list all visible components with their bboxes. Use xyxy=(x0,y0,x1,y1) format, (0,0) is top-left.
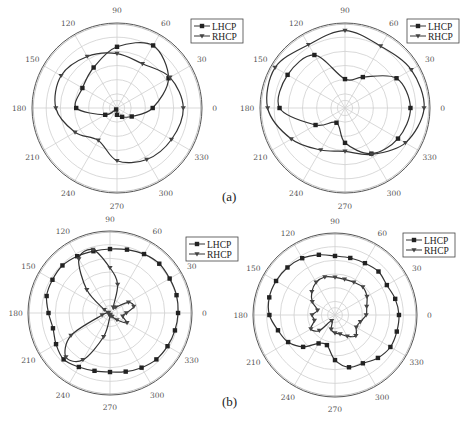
angle-tick-label: 30 xyxy=(187,262,197,271)
grid-spoke xyxy=(345,66,419,109)
angle-tick-label: 30 xyxy=(425,55,435,64)
lhcp-marker xyxy=(125,247,129,251)
lhcp-marker xyxy=(51,326,55,330)
grid-spoke xyxy=(271,108,345,151)
lhcp-marker xyxy=(267,313,271,317)
lhcp-marker xyxy=(333,254,337,258)
angle-tick-label: 330 xyxy=(422,153,437,162)
rhcp-marker xyxy=(76,257,81,261)
grid-spoke xyxy=(264,315,335,356)
angle-tick-label: 60 xyxy=(152,227,162,236)
legend-label-lhcp: LHCP xyxy=(207,240,231,250)
lhcp-marker xyxy=(313,123,317,127)
rhcp-marker xyxy=(309,290,314,294)
angle-tick-label: 270 xyxy=(110,202,125,211)
lhcp-marker xyxy=(385,283,389,287)
angle-tick-label: 240 xyxy=(289,189,304,198)
lhcp-marker xyxy=(200,24,204,28)
lhcp-marker xyxy=(124,369,128,373)
lhcp-marker xyxy=(361,361,365,365)
angle-tick-label: 300 xyxy=(159,189,174,198)
lhcp-marker xyxy=(333,358,337,362)
lhcp-marker xyxy=(74,106,78,110)
lhcp-marker xyxy=(416,24,420,28)
lhcp-marker xyxy=(343,141,347,145)
angle-tick-label: 150 xyxy=(246,264,261,273)
rhcp-marker xyxy=(312,319,317,323)
angle-tick-label: 120 xyxy=(281,229,296,238)
angle-tick-label: 330 xyxy=(194,153,209,162)
angle-tick-label: 150 xyxy=(253,55,268,64)
grid-spoke xyxy=(294,315,335,386)
lhcp-marker xyxy=(396,136,400,140)
polar-plot-b-right: 0306090120150180210240270300330LHCPRHCP xyxy=(234,217,455,415)
legend: LHCPRHCP xyxy=(186,237,238,261)
lhcp-marker xyxy=(317,253,321,257)
figure-canvas: 0306090120150180210240270300330LHCPRHCP … xyxy=(0,0,463,428)
lhcp-marker xyxy=(397,313,401,317)
polar-plot-a-left: 0306090120150180210240270300330LHCPRHCP xyxy=(12,6,243,211)
lhcp-marker xyxy=(343,77,347,81)
grid-spoke xyxy=(117,108,191,151)
grid-spoke xyxy=(75,34,118,108)
lhcp-marker xyxy=(363,261,367,265)
grid-spoke xyxy=(39,272,110,313)
legend-label-rhcp: RHCP xyxy=(212,32,237,42)
lhcp-marker xyxy=(44,294,48,298)
lhcp-marker xyxy=(376,356,380,360)
lhcp-marker xyxy=(347,365,351,369)
lhcp-marker xyxy=(108,247,112,251)
lhcp-marker xyxy=(274,279,278,283)
lhcp-marker xyxy=(151,106,155,110)
legend: LHCPRHCP xyxy=(191,19,243,43)
rhcp-marker xyxy=(120,315,125,319)
grid-spoke xyxy=(69,313,110,384)
polar-plot-a-right: 0306090120150180210240270300330LHCPRHCP xyxy=(240,6,459,211)
angle-tick-label: 120 xyxy=(289,19,304,28)
lhcp-marker xyxy=(165,344,169,348)
caption-b: (b) xyxy=(222,394,237,410)
lhcp-marker xyxy=(120,115,124,119)
lhcp-marker xyxy=(54,342,58,346)
grid-spoke xyxy=(117,66,191,109)
angle-tick-label: 90 xyxy=(340,6,350,15)
angle-tick-label: 60 xyxy=(377,229,387,238)
lhcp-marker xyxy=(92,369,96,373)
lhcp-marker xyxy=(151,43,155,47)
lhcp-marker xyxy=(300,256,304,260)
lhcp-marker xyxy=(80,86,84,90)
lhcp-marker xyxy=(285,265,289,269)
rhcp-marker xyxy=(364,295,369,299)
angle-tick-label: 180 xyxy=(234,311,249,320)
angle-tick-label: 150 xyxy=(25,55,40,64)
angle-tick-label: 30 xyxy=(197,55,207,64)
lhcp-marker xyxy=(277,106,281,110)
angle-tick-label: 210 xyxy=(25,153,40,162)
grid-spoke xyxy=(110,313,151,384)
lhcp-marker xyxy=(115,113,119,117)
angle-tick-label: 150 xyxy=(21,262,36,271)
caption-a: (a) xyxy=(222,189,236,205)
angle-tick-label: 0 xyxy=(440,104,445,113)
lhcp-marker xyxy=(276,328,280,332)
polar-plot-b-left: 0306090120150180210240270300330LHCPRHCP xyxy=(9,215,238,413)
angle-tick-label: 330 xyxy=(410,358,425,367)
lhcp-marker xyxy=(267,295,271,299)
angle-tick-label: 210 xyxy=(21,356,36,365)
angle-tick-label: 90 xyxy=(105,215,115,224)
grid-spoke xyxy=(303,108,346,182)
angle-tick-label: 300 xyxy=(150,391,165,400)
lhcp-marker xyxy=(301,345,305,349)
angle-tick-label: 300 xyxy=(375,393,390,402)
angle-tick-label: 300 xyxy=(387,189,402,198)
rhcp-marker xyxy=(272,66,277,70)
rhcp-marker xyxy=(364,305,369,309)
angle-tick-label: 240 xyxy=(281,393,296,402)
lhcp-marker xyxy=(174,293,178,297)
lhcp-marker xyxy=(388,345,392,349)
lhcp-marker xyxy=(46,311,50,315)
legend: LHCPRHCP xyxy=(407,19,459,43)
legend-label-rhcp: RHCP xyxy=(428,32,453,42)
lhcp-marker xyxy=(176,311,180,315)
grid-spoke xyxy=(335,244,376,315)
